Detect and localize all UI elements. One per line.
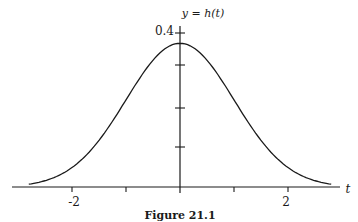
x-tick-label-neg2: -2 — [68, 195, 80, 209]
curve-label: y = h(t) — [181, 7, 225, 20]
y-tick-label-0.4: 0.4 — [155, 24, 174, 38]
x-axis-label: t — [346, 182, 351, 196]
figure-chart: y = h(t) 0.4 -2 2 t Figure 21.1 — [0, 0, 358, 222]
figure-caption: Figure 21.1 — [144, 209, 215, 222]
x-tick-label-2: 2 — [282, 195, 290, 209]
